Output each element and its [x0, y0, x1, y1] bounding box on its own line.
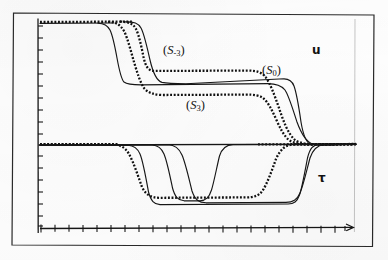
curve-s0b-upper [126, 22, 356, 145]
label-s-3-close: ) [201, 98, 205, 112]
label-u-axis: u [312, 44, 320, 56]
label-tau-axis: τ [318, 172, 325, 184]
lower-panel-curves [40, 144, 356, 204]
x-axis [40, 224, 354, 233]
label-s-minus-3-subscript: -3 [173, 48, 180, 58]
curve-sminus3-upper [120, 22, 356, 145]
plot-svg: .ink { stroke:#161616; fill:none; } .thi… [0, 0, 388, 260]
label-s-3: (S3) [186, 99, 205, 113]
curve-s0-upper [98, 23, 356, 145]
curve-s0-lower [40, 144, 356, 204]
label-s-0: (S0) [262, 64, 281, 78]
label-s-minus-3: (S-3) [163, 44, 185, 58]
label-s-0-close: ) [277, 63, 281, 77]
label-s-minus-3-close: ) [181, 43, 185, 57]
curve-sminus3-lower [40, 144, 356, 198]
upper-panel-curves [40, 22, 356, 146]
figure-canvas: .ink { stroke:#161616; fill:none; } .thi… [0, 0, 388, 260]
